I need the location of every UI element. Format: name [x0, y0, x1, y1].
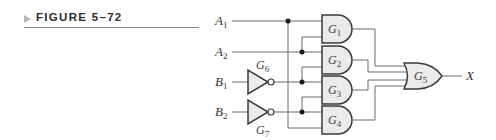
or-gate-g5: G5: [404, 63, 442, 89]
inverter-g7: G7: [232, 100, 274, 139]
inverter-label-g7: G7: [256, 123, 270, 139]
input-label-a1: A1: [214, 13, 227, 30]
junction-dot: [286, 19, 291, 24]
wire-a2: [232, 37, 322, 55]
input-label-b1: B1: [215, 74, 227, 91]
input-label-a2: A2: [214, 44, 227, 61]
inverter-g6: G6: [232, 58, 274, 94]
junction-dot: [300, 80, 305, 85]
junction-dot: [300, 50, 305, 55]
inversion-bubble: [268, 79, 274, 85]
wires-and-to-or: [352, 29, 408, 120]
wire-b1-inverted: [274, 67, 322, 85]
logic-circuit: A1 A2 B1 B2 G6 G7: [0, 0, 496, 140]
and-gate-g2: G2: [322, 46, 352, 74]
and-gate-g1: G1: [322, 15, 352, 43]
wire-b2-inverted: [274, 97, 322, 115]
and-gate-g4: G4: [322, 106, 352, 134]
input-label-b2: B2: [215, 104, 227, 121]
inversion-bubble: [268, 109, 274, 115]
and-gate-g3: G3: [322, 76, 352, 104]
output-label-x: X: [465, 68, 475, 83]
junction-dot: [300, 110, 305, 115]
inverter-label-g6: G6: [256, 58, 270, 74]
